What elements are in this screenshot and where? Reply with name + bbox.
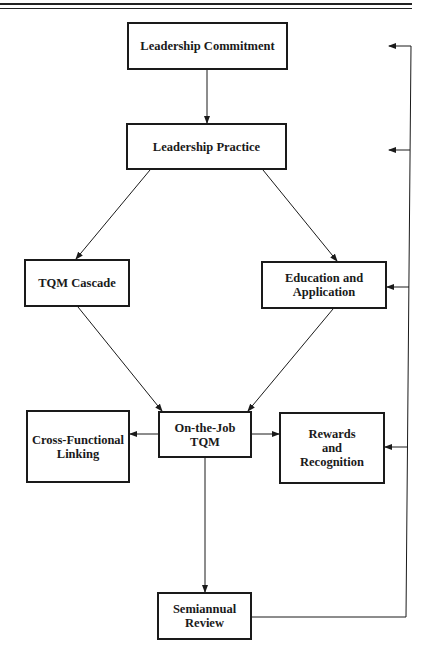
node-cross-functional-linking: Cross-Functional Linking — [26, 410, 130, 483]
node-label-line2: Application — [293, 285, 356, 299]
node-label-line2: Linking — [57, 447, 99, 461]
node-label-line2: and — [322, 441, 342, 455]
node-education-application: Education and Application — [261, 261, 387, 309]
arrow-practice-to-cascade — [76, 170, 150, 259]
arrow-education-to-onthejob — [248, 309, 333, 411]
node-leadership-practice: Leadership Practice — [126, 123, 287, 170]
node-label: TQM Cascade — [38, 276, 115, 290]
node-on-the-job-tqm: On-the-Job TQM — [158, 411, 252, 458]
node-label-line2: TQM — [190, 435, 220, 449]
node-label-line1: Rewards — [308, 427, 355, 441]
node-leadership-commitment: Leadership Commitment — [127, 22, 288, 70]
node-tqm-cascade: TQM Cascade — [24, 259, 130, 307]
node-label-line1: Semiannual — [173, 602, 236, 616]
arrow-cascade-to-onthejob — [78, 307, 162, 411]
node-label: Leadership Commitment — [140, 39, 274, 53]
node-semiannual-review: Semiannual Review — [157, 592, 252, 640]
node-label-line1: Education and — [285, 271, 363, 285]
node-label-line1: Cross-Functional — [32, 433, 124, 447]
node-label-line2: Review — [185, 616, 224, 630]
arrow-practice-to-education — [263, 170, 337, 261]
node-rewards-recognition: Rewards and Recognition — [279, 412, 385, 484]
connector-layer — [0, 0, 424, 656]
node-label: Leadership Practice — [153, 140, 260, 154]
node-label-line1: On-the-Job — [174, 421, 235, 435]
node-label-line3: Recognition — [300, 455, 364, 469]
